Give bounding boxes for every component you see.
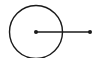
center-point: [34, 30, 38, 34]
geometry-diagram: [0, 0, 98, 58]
external-end-point: [88, 30, 92, 34]
